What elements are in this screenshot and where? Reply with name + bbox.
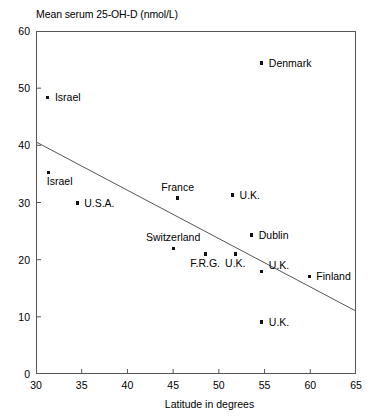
data-point-label: Finland	[316, 271, 350, 282]
data-point-label: U.K.	[225, 258, 245, 269]
x-tick-label: 55	[245, 380, 285, 391]
y-tick-label: 10	[0, 312, 30, 323]
data-point-marker	[231, 193, 234, 196]
data-point-marker	[172, 247, 175, 250]
x-axis-title: Latitude in degrees	[0, 398, 373, 410]
data-point-label: U.K.	[269, 316, 289, 327]
data-point-marker	[260, 61, 263, 64]
x-tick-label: 60	[290, 380, 330, 391]
data-point-marker	[204, 252, 207, 255]
data-point-label: France	[161, 182, 194, 193]
y-tick-label: 60	[0, 26, 30, 37]
y-tick-label: 30	[0, 198, 30, 209]
y-tick-label: 20	[0, 255, 30, 266]
data-point-label: U.K.	[240, 190, 260, 201]
chart-svg-layer	[0, 0, 373, 419]
x-tick-label: 50	[199, 380, 239, 391]
data-point-label: U.K.	[269, 260, 289, 271]
x-tick-label: 35	[62, 380, 102, 391]
data-point-label: Denmark	[269, 58, 312, 69]
scatter-chart: Mean serum 25-OH-D (nmol/L) 010203040506…	[0, 0, 373, 419]
data-point-marker	[234, 252, 237, 255]
data-point-label: Dublin	[259, 230, 289, 241]
y-tick-label: 50	[0, 83, 30, 94]
x-tick-label: 40	[107, 380, 147, 391]
data-point-marker	[260, 270, 263, 273]
y-tick-label: 40	[0, 140, 30, 151]
x-tick-label: 30	[16, 380, 56, 391]
x-tick-label: 45	[153, 380, 193, 391]
data-point-marker	[260, 320, 263, 323]
data-point-label: Israel	[55, 92, 81, 103]
data-point-marker	[176, 196, 179, 199]
x-axis-title-text: Latitude in degrees	[119, 398, 254, 410]
data-point-marker	[308, 275, 311, 278]
data-point-label: Israel	[47, 176, 73, 187]
data-point-marker	[47, 171, 50, 174]
regression-trend-line	[36, 142, 356, 311]
data-point-label: U.S.A.	[84, 198, 114, 209]
y-tick-label: 0	[0, 369, 30, 380]
data-point-marker	[76, 201, 79, 204]
x-tick-label: 65	[336, 380, 373, 391]
data-point-label: Switzerland	[146, 232, 200, 243]
data-point-marker	[250, 233, 253, 236]
data-point-label: F.R.G.	[190, 258, 220, 269]
data-point-marker	[46, 96, 49, 99]
